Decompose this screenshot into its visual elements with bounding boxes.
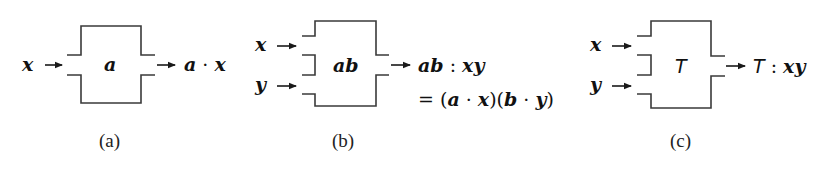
panel-b-output-expression: ab : xy xyxy=(418,54,486,76)
panel-b-input-y-label: y xyxy=(254,73,268,95)
panel-c-input-y-label: y xyxy=(589,73,603,95)
equation-dot-1: · xyxy=(460,88,478,110)
panel-a-output-tail: x xyxy=(213,53,226,75)
equation-dot-2: · xyxy=(517,88,535,110)
panel-b-output-tail: xy xyxy=(461,54,486,76)
panel-b-caption: (b) xyxy=(332,130,354,152)
panel-a-input-x-label: x xyxy=(21,53,34,75)
panel-c-output-expression: T : xy xyxy=(753,55,807,77)
panel-c-caption: (c) xyxy=(670,130,691,152)
panel-b-input-x-label: x xyxy=(254,33,267,55)
panel-a-caption: (a) xyxy=(99,130,120,152)
panel-a-output-expression: a · x xyxy=(184,53,226,75)
panel-c-box-label: T xyxy=(675,55,688,77)
panel-c-output-tail: xy xyxy=(782,55,807,77)
equation-close-paren: ) xyxy=(546,88,553,110)
panel-b-equation: = (a · x)(b · y) xyxy=(418,88,554,110)
panel-a-output-head: a xyxy=(184,53,196,75)
panel-a-output-op: · xyxy=(196,53,214,75)
panel-b: x y ab ab : xy = (a · x)(b · y) (b) xyxy=(254,21,554,152)
panel-b-box-label: ab xyxy=(333,54,359,76)
tensor-box-diagram-figure: x a a · x (a) x y ab ab : xy = (a · x)(b… xyxy=(0,0,835,176)
equation-a: a xyxy=(447,88,459,110)
panel-a: x a a · x (a) xyxy=(21,26,226,152)
panel-b-output-head: ab xyxy=(418,54,444,76)
panel-c: x y T T : xy (c) xyxy=(589,21,807,152)
panel-a-box-label: a xyxy=(104,53,116,75)
equation-b: b xyxy=(504,88,517,110)
equation-x: x xyxy=(477,88,490,110)
panel-c-input-x-label: x xyxy=(589,33,602,55)
panel-b-output-op: : xyxy=(444,54,462,76)
equation-mid-parens: )( xyxy=(489,88,504,110)
panel-c-output-op: : xyxy=(765,55,783,77)
equation-equals-open: = ( xyxy=(418,88,447,110)
